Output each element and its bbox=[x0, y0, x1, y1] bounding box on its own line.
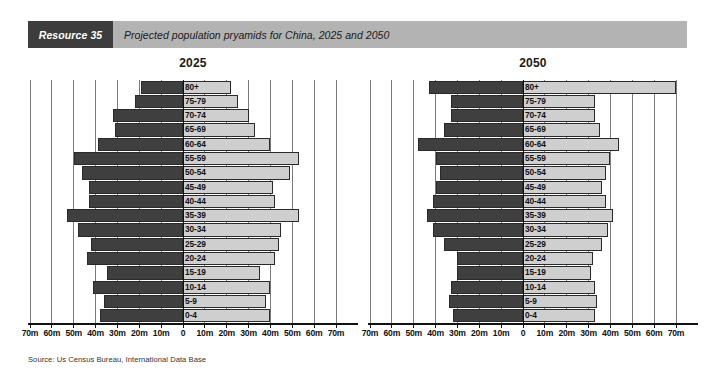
axis-tick bbox=[292, 324, 293, 328]
axis-tick-label: 70m bbox=[328, 328, 345, 338]
axis-tick bbox=[523, 324, 524, 328]
axis-tick bbox=[51, 324, 52, 328]
pyramid-row: 10-14 bbox=[28, 280, 358, 294]
bar-male bbox=[89, 181, 183, 194]
axis-tick-label: 50m bbox=[65, 328, 82, 338]
age-group-label: 55-59 bbox=[523, 152, 546, 165]
axis-tick-label: 50m bbox=[405, 328, 422, 338]
bar-male bbox=[115, 123, 183, 136]
pyramid-row: 45-49 bbox=[368, 180, 698, 194]
axis-tick-label: 70m bbox=[668, 328, 685, 338]
pyramid-row: 80+ bbox=[368, 80, 698, 94]
axis-tick bbox=[435, 324, 436, 328]
age-group-label: 5-9 bbox=[183, 295, 197, 308]
bar-male bbox=[98, 138, 183, 151]
age-group-label: 40-44 bbox=[523, 195, 546, 208]
pyramid-row: 20-24 bbox=[28, 252, 358, 266]
bars-2050: 0-45-910-1415-1920-2425-2930-3435-3940-4… bbox=[368, 80, 698, 325]
axis-tick bbox=[501, 324, 502, 328]
axis-tick bbox=[336, 324, 337, 328]
population-pyramid-2050: 0-45-910-1415-1920-2425-2930-3435-3940-4… bbox=[368, 80, 698, 325]
age-group-label: 15-19 bbox=[183, 266, 206, 279]
age-group-label: 80+ bbox=[183, 81, 199, 94]
pyramid-row: 50-54 bbox=[368, 166, 698, 180]
bar-male bbox=[436, 152, 523, 165]
age-group-label: 30-34 bbox=[183, 223, 206, 236]
axis-tick-label: 30m bbox=[109, 328, 126, 338]
bar-male bbox=[107, 266, 184, 279]
axis-tick bbox=[610, 324, 611, 328]
axis-tick-label: 40m bbox=[262, 328, 279, 338]
age-group-label: 30-34 bbox=[523, 223, 546, 236]
bar-male bbox=[78, 223, 183, 236]
age-group-label: 0-4 bbox=[183, 309, 197, 322]
axis-tick bbox=[117, 324, 118, 328]
axis-tick-label: 10m bbox=[537, 328, 554, 338]
bar-male bbox=[457, 252, 523, 265]
axis-tick bbox=[95, 324, 96, 328]
axis-tick bbox=[544, 324, 545, 328]
age-group-label: 40-44 bbox=[183, 195, 206, 208]
chart-title-2025: 2025 bbox=[28, 55, 358, 71]
bar-male bbox=[418, 138, 523, 151]
axis-tick bbox=[248, 324, 249, 328]
pyramid-row: 45-49 bbox=[28, 180, 358, 194]
pyramid-row: 75-79 bbox=[28, 94, 358, 108]
age-group-label: 10-14 bbox=[183, 281, 206, 294]
axis-tick-label: 60m bbox=[384, 328, 401, 338]
bar-male bbox=[451, 109, 523, 122]
resource-header-banner: Resource 35 Projected population pryamid… bbox=[28, 21, 687, 48]
bar-male bbox=[453, 309, 523, 322]
axis-tick-label: 60m bbox=[44, 328, 61, 338]
axis-tick bbox=[270, 324, 271, 328]
pyramid-row: 55-59 bbox=[368, 151, 698, 165]
age-group-label: 5-9 bbox=[523, 295, 537, 308]
chart-title-2050: 2050 bbox=[368, 55, 698, 71]
age-group-label: 15-19 bbox=[523, 266, 546, 279]
pyramid-row: 60-64 bbox=[368, 137, 698, 151]
source-note: Source: Us Census Bureau, International … bbox=[28, 355, 206, 364]
axis-tick bbox=[566, 324, 567, 328]
bar-male bbox=[449, 295, 523, 308]
pyramid-row: 70-74 bbox=[28, 109, 358, 123]
axis-tick bbox=[139, 324, 140, 328]
axis-tick bbox=[391, 324, 392, 328]
bar-male bbox=[440, 166, 523, 179]
bar-male bbox=[100, 309, 183, 322]
pyramid-row: 15-19 bbox=[28, 266, 358, 280]
bar-male bbox=[457, 266, 523, 279]
pyramid-row: 0-4 bbox=[368, 309, 698, 323]
age-group-label: 20-24 bbox=[523, 252, 546, 265]
age-group-label: 60-64 bbox=[183, 138, 206, 151]
pyramid-row: 65-69 bbox=[368, 123, 698, 137]
axis-tick bbox=[479, 324, 480, 328]
age-group-label: 45-49 bbox=[523, 181, 546, 194]
axis-tick bbox=[370, 324, 371, 328]
pyramid-row: 60-64 bbox=[28, 137, 358, 151]
bar-male bbox=[451, 281, 523, 294]
pyramid-row: 70-74 bbox=[368, 109, 698, 123]
bar-male bbox=[93, 281, 183, 294]
age-group-label: 50-54 bbox=[523, 166, 546, 179]
axis-tick bbox=[457, 324, 458, 328]
axis-tick-label: 0 bbox=[521, 328, 526, 338]
axis-tick-label: 30m bbox=[240, 328, 257, 338]
axis-tick-label: 0 bbox=[181, 328, 186, 338]
axis-tick bbox=[632, 324, 633, 328]
age-group-label: 70-74 bbox=[523, 109, 546, 122]
age-group-label: 60-64 bbox=[523, 138, 546, 151]
axis-tick-label: 70m bbox=[22, 328, 39, 338]
axis-tick-label: 40m bbox=[602, 328, 619, 338]
axis-tick-label: 70m bbox=[362, 328, 379, 338]
pyramid-row: 10-14 bbox=[368, 280, 698, 294]
pyramid-row: 30-34 bbox=[368, 223, 698, 237]
axis-tick-label: 10m bbox=[493, 328, 510, 338]
pyramid-row: 35-39 bbox=[28, 209, 358, 223]
bar-male bbox=[444, 123, 523, 136]
bar-male bbox=[89, 195, 183, 208]
pyramid-row: 40-44 bbox=[368, 194, 698, 208]
bar-male bbox=[429, 81, 523, 94]
chart-panel-2050: 2050 0-45-910-1415-1920-2425-2930-3435-3… bbox=[368, 55, 698, 342]
bar-male bbox=[433, 195, 523, 208]
axis-tick-label: 50m bbox=[284, 328, 301, 338]
